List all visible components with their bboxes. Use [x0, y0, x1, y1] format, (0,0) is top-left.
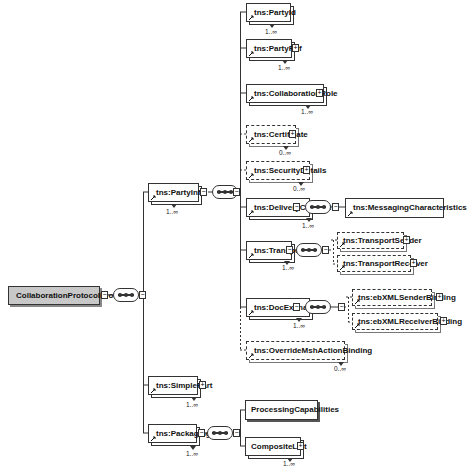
collapse-toggle-party-info-seq[interactable]: −: [233, 188, 240, 196]
expand-toggle-composite-list[interactable]: +: [297, 442, 304, 450]
reference-arrow-icon: [249, 137, 254, 142]
expand-toggle-simple-part[interactable]: +: [199, 381, 206, 389]
processing-capabilities-label: ProcessingCapabilities: [251, 405, 339, 414]
party-info-node[interactable]: tns:PartyInfo: [148, 183, 199, 202]
reference-arrow-icon: [151, 388, 156, 393]
override-msh-action-binding-node[interactable]: tns:OverrideMshActionBinding: [246, 341, 345, 360]
messaging-characteristics-label: tns:MessagingCharacteristics: [353, 203, 467, 212]
security-details-cardinality: 0..∞: [293, 185, 305, 192]
expand-toggle-ebxml-receiver-binding[interactable]: +: [440, 317, 447, 325]
transport-receiver-node[interactable]: tns:TransportReceiver: [337, 255, 411, 272]
expand-toggle-transport-sender[interactable]: +: [403, 236, 410, 244]
packaging-node[interactable]: tns:Packaging: [148, 424, 197, 443]
party-id-cardinality: 1..∞: [265, 28, 277, 35]
collapse-toggle-root[interactable]: −: [101, 291, 108, 299]
sequence-compositor-root[interactable]: [113, 288, 139, 302]
reference-arrow-icon: [249, 210, 254, 215]
reference-arrow-icon: [151, 436, 156, 441]
expand-toggle-security-details[interactable]: +: [303, 166, 310, 174]
reference-arrow-icon: [348, 211, 353, 216]
override-msh-action-binding-cardinality: 0..∞: [334, 365, 346, 372]
ebxml-sender-binding-node[interactable]: tns:ebXMLSenderBinding: [352, 289, 432, 306]
collapse-toggle-party-info[interactable]: −: [200, 188, 207, 196]
reference-arrow-icon: [249, 253, 254, 258]
reference-arrow-icon: [249, 15, 254, 20]
party-info-label: tns:PartyInfo: [156, 188, 205, 197]
expand-toggle-transport-receiver[interactable]: +: [410, 259, 417, 267]
ebxml-receiver-binding-node[interactable]: tns:ebXMLReceiverBinding: [352, 313, 438, 330]
sequence-compositor-packaging[interactable]: [207, 426, 233, 440]
collapse-toggle-packaging-seq[interactable]: −: [233, 429, 240, 437]
doc-exchange-node[interactable]: tns:DocExchange: [246, 298, 310, 317]
delivery-channel-cardinality: 1..∞: [302, 222, 314, 229]
collapse-toggle-transport-seq[interactable]: −: [322, 246, 329, 254]
expand-toggle-collaboration-role[interactable]: +: [316, 89, 323, 97]
security-details-node[interactable]: tns:SecurityDetails: [246, 161, 310, 180]
reference-arrow-icon: [340, 242, 345, 247]
delivery-channel-node[interactable]: tns:DeliveryChannel: [246, 198, 310, 217]
certificate-cardinality: 0..∞: [279, 149, 291, 156]
security-details-label: tns:SecurityDetails: [254, 166, 326, 175]
expand-toggle-ebxml-sender-binding[interactable]: +: [436, 293, 443, 301]
collapse-toggle-doc-exchange-seq[interactable]: −: [338, 303, 345, 311]
transport-cardinality: 1..∞: [282, 264, 294, 271]
composite-list-node[interactable]: CompositeList: [245, 437, 301, 456]
reference-arrow-icon: [151, 195, 156, 200]
reference-arrow-icon: [249, 96, 254, 101]
composite-list-cardinality: 1..∞: [283, 460, 295, 467]
collapse-toggle-doc-exchange[interactable]: −: [293, 303, 300, 311]
collapse-toggle-root-seq[interactable]: −: [139, 291, 146, 299]
packaging-cardinality: 1..∞: [186, 450, 198, 457]
reference-arrow-icon: [340, 265, 345, 270]
reference-arrow-icon: [355, 299, 360, 304]
reference-arrow-icon: [249, 173, 254, 178]
sequence-compositor-delivery-channel[interactable]: [305, 200, 331, 214]
certificate-label: tns:Certificate: [254, 130, 308, 139]
collaboration-role-node[interactable]: tns:CollaborationRole: [246, 84, 324, 103]
collapse-toggle-transport[interactable]: −: [286, 246, 293, 254]
transport-sender-node[interactable]: tns:TransportSender: [337, 232, 404, 249]
party-id-label: tns:PartyId: [254, 8, 296, 17]
collapse-toggle-packaging[interactable]: −: [198, 429, 205, 437]
simple-part-cardinality: 1..∞: [186, 401, 198, 408]
collapse-toggle-delivery-seq[interactable]: −: [332, 203, 339, 211]
party-ref-node[interactable]: tns:PartyRef: [246, 39, 292, 58]
processing-capabilities-node[interactable]: ProcessingCapabilities: [245, 400, 318, 420]
collaboration-role-label: tns:CollaborationRole: [254, 89, 338, 98]
root-element-label: CollaborationProtocolProfile: [16, 291, 125, 300]
collaboration-role-cardinality: 1..∞: [301, 108, 313, 115]
collapse-toggle-delivery-channel[interactable]: −: [293, 203, 300, 211]
override-msh-action-binding-label: tns:OverrideMshActionBinding: [254, 346, 372, 355]
root-element-node[interactable]: CollaborationProtocolProfile: [8, 286, 100, 305]
sequence-compositor-doc-exchange[interactable]: [305, 300, 331, 314]
simple-part-node[interactable]: tns:SimplePart: [148, 376, 198, 395]
doc-exchange-cardinality: 1..∞: [293, 322, 305, 329]
reference-arrow-icon: [249, 353, 254, 358]
expand-toggle-party-ref[interactable]: +: [292, 44, 299, 52]
expand-toggle-certificate[interactable]: +: [289, 130, 296, 138]
party-ref-cardinality: 1..∞: [278, 64, 290, 71]
party-info-cardinality: 1..∞: [166, 208, 178, 215]
reference-arrow-icon: [249, 310, 254, 315]
sequence-compositor-transport[interactable]: [296, 243, 322, 257]
reference-arrow-icon: [249, 51, 254, 56]
messaging-characteristics-node[interactable]: tns:MessagingCharacteristics: [345, 198, 444, 218]
party-id-node[interactable]: tns:PartyId: [246, 3, 291, 22]
reference-arrow-icon: [355, 323, 360, 328]
